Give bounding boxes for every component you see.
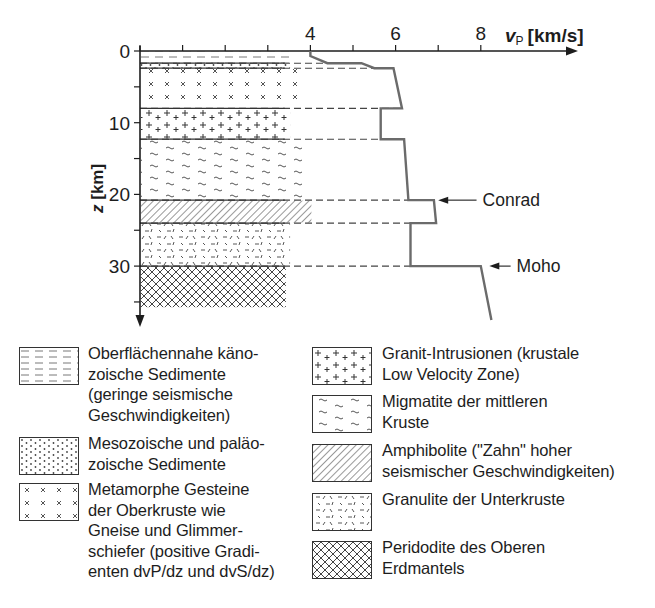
layer-amphibolite	[141, 201, 311, 223]
annotation-moho: Moho	[489, 256, 560, 276]
legend-swatch-wave	[312, 395, 372, 433]
legend-swatch-plus	[312, 347, 372, 385]
legend-label: Granit-Intrusionen (krustale Low Velocit…	[382, 343, 579, 384]
rock-layers	[141, 52, 311, 308]
layer-peridotite	[141, 267, 286, 308]
arrow-left-icon	[438, 197, 448, 204]
x-tick-label: 8	[476, 23, 487, 44]
legend-label: Metamorphe Gesteine der Oberkruste wie G…	[88, 479, 275, 582]
x-axis-arrow-icon	[566, 47, 578, 56]
y-tick-label: 10	[109, 113, 130, 134]
x-tick-label: 6	[390, 23, 401, 44]
legend-label: Migmatite der mittleren Kruste	[382, 391, 548, 432]
layer-sediments-cenozoic	[141, 52, 290, 63]
legend-swatch-ticks	[312, 493, 372, 531]
layer-metamorphic	[141, 69, 303, 108]
y-axis-arrow-icon	[136, 315, 145, 327]
velocity-depth-chart: 4680102030vP[km/s]z [km] ConradMoho	[0, 0, 655, 340]
legend-swatch-dots	[19, 437, 79, 475]
legend-label: Mesozoische und paläo- zoische Sedimente	[88, 433, 265, 474]
y-tick-label: 20	[109, 184, 130, 205]
layer-migmatite	[141, 140, 303, 200]
legend-swatch-dash	[19, 347, 79, 385]
legend-swatch-cross	[19, 483, 79, 521]
y-tick-label: 0	[119, 41, 130, 62]
arrow-left-icon	[489, 263, 499, 270]
legend-label: Granulite der Unterkruste	[382, 489, 565, 510]
y-tick-label: 30	[109, 256, 130, 277]
x-axis-label: vP[km/s]	[505, 25, 584, 48]
legend-label: Amphibolite ("Zahn" hoher seismischer Ge…	[382, 440, 615, 481]
annotation-label: Moho	[517, 256, 561, 276]
legend-swatch-hatch	[312, 444, 372, 482]
x-tick-label: 4	[305, 23, 316, 44]
vp-profile-line	[310, 51, 491, 320]
legend-swatch-crosshatch	[312, 541, 372, 579]
layer-sediments-mesozoic	[141, 64, 290, 68]
y-axis-label: z [km]	[88, 164, 107, 214]
layer-granulite	[141, 224, 290, 266]
legend-label: Peridodite des Oberen Erdmantels	[382, 537, 545, 578]
annotation-conrad: Conrad	[438, 190, 540, 210]
legend-label: Oberflächennahe käno- zoische Sedimente …	[88, 343, 258, 425]
layer-granite	[141, 109, 290, 139]
annotation-label: Conrad	[483, 190, 540, 210]
boundary-annotations: ConradMoho	[438, 190, 560, 276]
